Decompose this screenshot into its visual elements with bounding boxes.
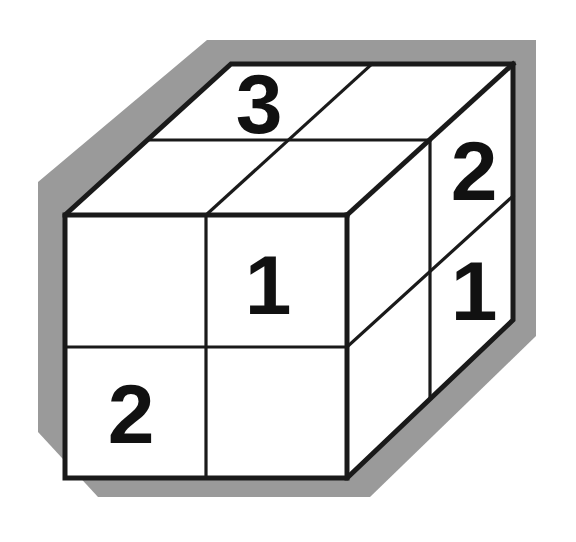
cube-diagram-canvas: 3 2 1 1 2: [0, 0, 576, 542]
right-face-number-1: 1: [451, 244, 498, 338]
top-face-number-3: 3: [236, 57, 283, 151]
right-face-number-2: 2: [451, 124, 498, 218]
front-face-number-1: 1: [245, 238, 292, 332]
front-face-number-2: 2: [108, 367, 155, 461]
cube-illustration: 3 2 1 1 2: [0, 0, 576, 542]
